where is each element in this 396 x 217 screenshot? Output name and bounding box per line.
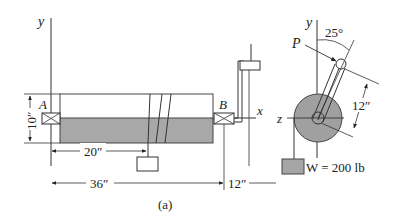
left-y-axis-label: y	[36, 14, 45, 29]
z-axis-label: z	[276, 111, 282, 126]
shaft-pulley-diagram: y A 10″ B x	[0, 0, 396, 217]
crank-length-label: 12″	[352, 98, 370, 113]
force-p-label: P	[291, 36, 301, 51]
pulley: z	[276, 94, 344, 142]
weight-label: W = 200 lb	[306, 160, 365, 175]
figure-caption: (a)	[158, 197, 172, 212]
angle-indicator: 25°	[317, 25, 349, 50]
overhang-label: 12″	[228, 176, 246, 191]
bearing-b-label: B	[219, 97, 227, 112]
height-label: 10″	[24, 112, 39, 130]
span-label: 36″	[90, 176, 108, 191]
height-dimension: 10″	[24, 96, 39, 141]
load-position-dimension: 20″	[52, 143, 146, 159]
bearing-b: B	[214, 97, 234, 124]
hanging-load	[137, 143, 158, 171]
bearing-a-label: A	[38, 97, 47, 112]
bearing-a: A	[38, 97, 60, 124]
x-axis-label: x	[256, 103, 263, 118]
shaft	[60, 94, 213, 143]
load-position-label: 20″	[84, 144, 102, 159]
angle-label: 25°	[325, 25, 343, 40]
right-y-axis-label: y	[304, 15, 313, 30]
